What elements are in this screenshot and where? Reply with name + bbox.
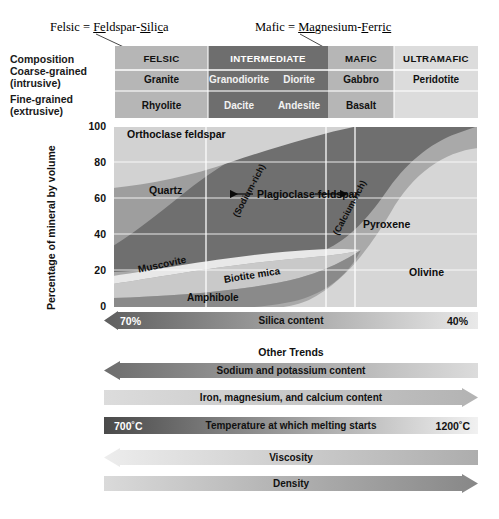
- diagram-canvas: Felsic = Feldspar-Silica Mafic = Magnesi…: [0, 0, 499, 519]
- label-amphibole: Amphibole: [187, 292, 239, 303]
- y-tick-40: 40: [80, 228, 106, 240]
- header-felsic: FELSIC: [115, 47, 208, 69]
- y-tick-60: 60: [80, 192, 106, 204]
- composition-label: Composition: [10, 53, 106, 65]
- fine-grained-line1: Fine-grained: [10, 93, 73, 105]
- cell-peridotite: Peridotite: [394, 69, 478, 90]
- iron-magnesium-calcium-bar: Iron, magnesium, and calcium content: [104, 388, 478, 407]
- cell-dacite: Dacite: [208, 93, 270, 118]
- coarse-grained-line2: (intrusive): [10, 77, 61, 89]
- viscosity-bar: Viscosity: [104, 448, 478, 467]
- header-mafic: MAFIC: [328, 47, 394, 69]
- table-row-divider-2: [115, 90, 478, 92]
- composition-label-text: Composition: [10, 53, 74, 65]
- y-tick-100: 100: [80, 120, 106, 132]
- header-intermediate: INTERMEDIATE: [208, 47, 328, 69]
- y-tick-20: 20: [80, 264, 106, 276]
- cell-gabbro: Gabbro: [328, 69, 394, 90]
- density-bar: Density: [104, 474, 478, 493]
- temperature-bar: 700˚C Temperature at which melting start…: [104, 416, 478, 435]
- viscosity-label: Viscosity: [104, 448, 478, 467]
- temperature-label: Temperature at which melting starts: [104, 416, 478, 435]
- sodium-potassium-label: Sodium and potassium content: [104, 361, 478, 380]
- silica-right-value: 40%: [447, 311, 468, 330]
- y-tick-80: 80: [80, 156, 106, 168]
- coarse-grained-label: Coarse-grained (intrusive): [10, 65, 106, 90]
- cell-granite: Granite: [115, 69, 208, 90]
- mineral-composition-plot: Orthoclase feldspar Quartz Plagioclase f…: [113, 126, 478, 308]
- y-tick-0: 0: [80, 300, 106, 312]
- density-label: Density: [104, 474, 478, 493]
- header-ultramafic: ULTRAMAFIC: [394, 47, 478, 69]
- cell-basalt: Basalt: [328, 93, 394, 118]
- cell-diorite: Diorite: [270, 69, 328, 90]
- fine-grained-line2: (extrusive): [10, 105, 63, 117]
- silica-bar-label: Silica content: [104, 311, 478, 330]
- coarse-grained-line1: Coarse-grained: [10, 65, 87, 77]
- temperature-right-value: 1200˚C: [436, 416, 470, 435]
- fine-grained-label: Fine-grained (extrusive): [10, 93, 106, 118]
- cell-andesite: Andesite: [270, 93, 328, 118]
- y-axis-title: Percentage of mineral by volume: [32, 128, 48, 310]
- composition-table: FELSIC INTERMEDIATE MAFIC ULTRAMAFIC Gra…: [115, 46, 478, 118]
- silica-content-bar: 70% Silica content 40%: [104, 311, 478, 330]
- iron-magnesium-calcium-label: Iron, magnesium, and calcium content: [104, 388, 478, 407]
- mineral-area-chart: [113, 126, 478, 308]
- cell-granodiorite: Granodiorite: [208, 69, 270, 90]
- sodium-potassium-bar: Sodium and potassium content: [104, 361, 478, 380]
- cell-rhyolite: Rhyolite: [115, 93, 208, 118]
